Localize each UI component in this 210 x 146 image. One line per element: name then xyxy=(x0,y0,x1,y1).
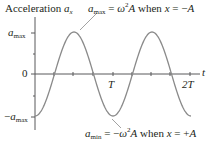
y-axis-title: Acceleration ax xyxy=(5,3,73,14)
chart-plot xyxy=(0,0,210,146)
y-ticks xyxy=(31,33,35,117)
axis-title-sub: x xyxy=(69,8,72,16)
t-axis-label: t xyxy=(202,67,205,78)
min-rhs: A xyxy=(189,127,196,139)
ytick-max-sub: max xyxy=(14,32,26,40)
ytick-zero-label: 0 xyxy=(22,68,28,79)
min-eq2: = + xyxy=(172,127,190,139)
max-eq2: = − xyxy=(170,2,188,14)
max-sub: max xyxy=(94,8,106,16)
min-sub: min xyxy=(91,133,102,141)
xtick-T-label: T xyxy=(108,79,114,90)
max-rhs: A xyxy=(187,2,194,14)
xtick-2T-label: 2T xyxy=(182,79,194,90)
max-eq: = xyxy=(106,2,118,14)
min-omega: ω xyxy=(119,127,127,139)
ytick-min-label: −amax xyxy=(4,111,28,122)
ytick-min-sub: max xyxy=(16,116,28,124)
min-when: when xyxy=(137,127,166,139)
max-annotation: amax = ω2A when x = −A xyxy=(88,3,194,14)
ytick-max-label: amax xyxy=(8,27,26,38)
axis-title-word: Acceleration xyxy=(5,2,64,14)
acceleration-chart: Acceleration ax amax = ω2A when x = −A a… xyxy=(0,0,210,146)
max-omega: ω xyxy=(117,2,125,14)
min-annotation: amin = −ω2A when x = +A xyxy=(85,128,196,139)
max-when: when xyxy=(135,2,164,14)
min-eq: = − xyxy=(101,127,119,139)
